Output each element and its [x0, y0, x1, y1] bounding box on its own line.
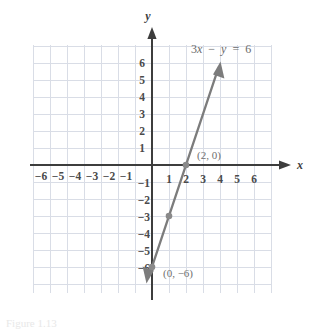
point-label-y-intercept: (0, −6): [163, 267, 193, 280]
point-marker: [183, 162, 190, 169]
equation-text: 3x−y=6: [191, 42, 251, 56]
x-axis-label: x: [296, 158, 303, 172]
y-tick-label: 1: [139, 142, 145, 154]
y-tick-label: 4: [139, 91, 145, 103]
x-tick-label: 3: [200, 173, 206, 185]
y-tick-labels-negative: −1 −2 −3 −4 −5 −6: [138, 177, 151, 274]
point-marker: [149, 264, 156, 271]
y-axis-arrowhead: [147, 27, 156, 39]
point-marker: [166, 213, 173, 220]
x-tick-label: 1: [166, 173, 172, 185]
x-tick-label: −3: [86, 170, 99, 182]
figure-caption: Figure 1.13: [6, 317, 57, 329]
x-tick-label: −4: [69, 170, 82, 182]
y-tick-label: 2: [139, 125, 145, 137]
equation-variable-x: x: [196, 42, 203, 56]
x-tick-label: 2: [183, 173, 189, 185]
y-tick-label: −5: [138, 245, 151, 257]
x-tick-label: 5: [234, 173, 240, 185]
x-tick-label: −2: [103, 170, 116, 182]
axes: [30, 27, 291, 300]
equation-rhs: 6: [245, 42, 251, 56]
x-tick-label: 6: [251, 173, 257, 185]
x-tick-label: −5: [52, 170, 65, 182]
y-tick-label: −3: [138, 211, 151, 223]
y-axis-label: y: [143, 9, 151, 23]
equation-equals: =: [232, 42, 239, 56]
y-tick-label: 6: [139, 57, 145, 69]
equation-operator: −: [208, 42, 215, 56]
x-axis-arrowhead: [279, 160, 291, 169]
line-segment: [149, 71, 217, 275]
x-tick-label: 4: [217, 173, 223, 185]
y-tick-labels-positive: 6 5 4 3 2 1: [139, 57, 145, 154]
y-tick-label: −1: [138, 177, 151, 189]
equation-variable-y: y: [220, 42, 227, 56]
equation-label: 3x−y=6: [191, 42, 251, 56]
y-tick-label: 3: [139, 108, 145, 120]
y-tick-label: −2: [138, 194, 151, 206]
x-tick-label: −1: [120, 170, 133, 182]
y-tick-label: 5: [139, 74, 145, 86]
y-tick-label: −4: [138, 228, 151, 240]
x-tick-label: −6: [35, 170, 48, 182]
point-label-x-intercept: (2, 0): [197, 149, 221, 162]
